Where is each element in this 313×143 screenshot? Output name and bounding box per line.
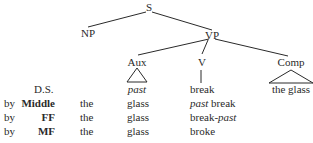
verb-main: broke — [190, 125, 215, 137]
node-aux: Aux — [128, 57, 147, 68]
row-noun: glass — [127, 112, 149, 123]
verb-main: break- — [190, 111, 218, 123]
row-verb: past break — [190, 98, 236, 109]
verb-prefix: past — [190, 97, 208, 109]
row-verb: break-past — [190, 112, 236, 123]
row-det: the — [80, 98, 93, 109]
leaf-comp: the glass — [272, 84, 310, 95]
row-det: the — [80, 126, 93, 137]
row-verb: broke — [190, 126, 215, 137]
node-s: S — [146, 2, 152, 13]
verb-main: break — [208, 97, 235, 109]
row-det: the — [80, 112, 93, 123]
row-by: by — [4, 126, 15, 137]
row-rule: MF — [38, 126, 55, 137]
row-noun: glass — [127, 126, 149, 137]
row-by: by — [4, 112, 15, 123]
row-noun: glass — [127, 98, 149, 109]
ds-label: D.S. — [34, 84, 54, 95]
node-vp: VP — [205, 30, 219, 41]
node-comp: Comp — [278, 57, 305, 68]
row-by: by — [4, 98, 15, 109]
verb-suffix: past — [218, 111, 236, 123]
row-rule: FF — [42, 112, 55, 123]
node-np: NP — [81, 28, 95, 39]
row-rule: Middle — [21, 98, 55, 109]
leaf-aux: past — [128, 84, 146, 95]
leaf-v: break — [190, 84, 214, 95]
node-v: V — [198, 57, 206, 68]
